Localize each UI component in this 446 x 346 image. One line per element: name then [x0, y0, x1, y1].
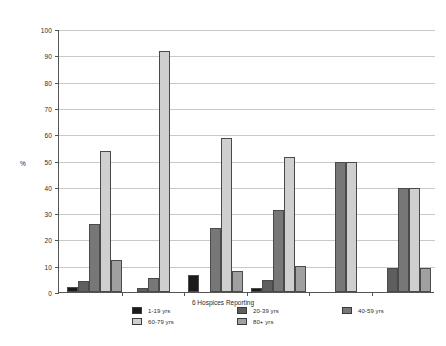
bar-group: [59, 30, 122, 292]
bar-group: [184, 30, 246, 292]
bar: [251, 288, 262, 292]
bar: [111, 260, 122, 292]
bar: [335, 162, 346, 292]
x-axis-tick: [122, 292, 123, 296]
bar: [398, 188, 409, 292]
legend-swatch: [132, 307, 142, 314]
y-axis-title: %: [20, 160, 26, 167]
bar: [67, 287, 78, 292]
legend-label: 80+ yrs: [253, 319, 274, 325]
bar: [210, 228, 221, 292]
legend-label: 20-39 yrs: [253, 308, 279, 314]
chart-legend: 1-19 yrs20-39 yrs40-59 yrs60-79 yrs80+ y…: [132, 306, 392, 326]
y-axis-tick-label: 40: [45, 184, 52, 191]
bar: [262, 280, 273, 292]
y-axis-tick-label: 100: [41, 27, 52, 34]
legend-label: 1-19 yrs: [148, 308, 170, 314]
bar-group: [247, 30, 309, 292]
legend-label: 60-79 yrs: [148, 319, 174, 325]
bar: [346, 162, 357, 292]
bar: [188, 275, 199, 292]
legend-label: 40-59 yrs: [358, 308, 384, 314]
bar: [221, 138, 232, 292]
legend-swatch: [237, 307, 247, 314]
legend-item: 1-19 yrs: [132, 306, 237, 315]
y-axis-tick-label: 90: [45, 53, 52, 60]
bar: [137, 288, 148, 292]
x-axis-title: 6 Hospices Reporting: [0, 299, 446, 306]
bar: [295, 266, 306, 292]
y-axis-tick-label: 20: [45, 237, 52, 244]
y-axis-tick-label: 60: [45, 132, 52, 139]
legend-item: 20-39 yrs: [237, 306, 342, 315]
bar: [159, 51, 170, 292]
bar: [232, 271, 243, 292]
bar: [148, 278, 159, 292]
x-axis-tick: [184, 292, 185, 296]
plot-area: 0102030405060708090100: [58, 30, 434, 293]
legend-swatch: [342, 307, 352, 314]
legend-spacer: [342, 317, 446, 326]
bar-group: [309, 30, 371, 292]
y-axis-tick-label: 50: [45, 158, 52, 165]
bar-group: [122, 30, 184, 292]
bar: [420, 268, 431, 292]
y-axis-tick-label: 70: [45, 105, 52, 112]
y-axis-tick-label: 0: [48, 290, 52, 297]
legend-item: 40-59 yrs: [342, 306, 446, 315]
y-axis-tick: [55, 293, 59, 294]
y-axis-tick-label: 80: [45, 79, 52, 86]
x-axis-tick: [247, 292, 248, 296]
bar: [100, 151, 111, 292]
x-axis-tick: [309, 292, 310, 296]
bar: [284, 157, 295, 292]
bar: [89, 224, 100, 292]
legend-swatch: [237, 318, 247, 325]
bar: [273, 210, 284, 292]
x-axis-tick: [372, 292, 373, 296]
legend-swatch: [132, 318, 142, 325]
bar: [78, 281, 89, 292]
bar-group: [372, 30, 434, 292]
y-axis-tick-label: 30: [45, 211, 52, 218]
bar-chart: % 0102030405060708090100 6 Hospices Repo…: [0, 0, 446, 346]
legend-item: 80+ yrs: [237, 317, 342, 326]
bar-groups: [59, 30, 434, 292]
y-axis-tick-label: 10: [45, 263, 52, 270]
bar: [409, 188, 420, 292]
legend-item: 60-79 yrs: [132, 317, 237, 326]
bar: [387, 268, 398, 292]
